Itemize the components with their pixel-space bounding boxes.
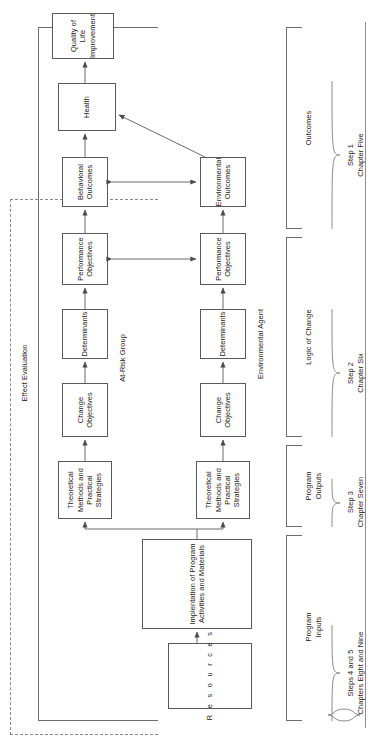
- band-label-program-inputs: Program Inputs: [304, 569, 323, 685]
- figure-page: Effect Evaluation Process Evaluation Res…: [0, 0, 379, 751]
- band-right-tick-logic-of-change: [286, 237, 302, 238]
- step-2-step: Step 2: [346, 362, 355, 384]
- box-methods-bottom-text: Theoretical Methods and Practical Strate…: [204, 463, 242, 517]
- box-quality-of-life: Quality of Life Improvement: [52, 13, 114, 59]
- band-left-tick-logic-of-change: [286, 436, 302, 437]
- step-label-steps-4-5: Steps 4 and 5Chapters Eight and Nine: [346, 613, 365, 733]
- box-health-text: Health: [82, 96, 91, 118]
- row-label-at-risk-group: At-Risk Group: [118, 313, 128, 403]
- step-4-5-step: Steps 4 and 5: [346, 650, 355, 697]
- step-4-5-chapter: Chapters Eight and Nine: [356, 632, 365, 715]
- step-label-step-2: Step 2Chapter Six: [346, 328, 365, 418]
- step-3-step: Step 3: [346, 491, 355, 513]
- box-change-objectives-top: Change Objectives: [62, 383, 108, 437]
- box-performance-objectives-top-text: Performance Objectives: [76, 235, 95, 283]
- step-1-step: Step 1: [346, 144, 355, 166]
- row-label-environmental-agent: Environmental Agent: [256, 289, 266, 399]
- step-label-step-1: Step 1Chapter Five: [346, 110, 365, 200]
- box-performance-objectives-bottom-text: Performance Objectives: [214, 235, 233, 283]
- box-change-objectives-bottom: Change Objectives: [200, 383, 246, 437]
- box-methods-top-text: Theoretical Methods and Practical Strate…: [66, 463, 104, 517]
- band-top-rule-program-inputs: [286, 535, 287, 721]
- box-environmental-outcomes-text: Environmental Outcomes: [214, 158, 233, 207]
- band-left-tick-program-inputs: [286, 720, 302, 721]
- box-resources: Resources: [168, 643, 252, 709]
- box-methods-top: Theoretical Methods and Practical Strate…: [58, 461, 112, 519]
- box-determinants-bottom-text: Determinants: [218, 311, 227, 356]
- band-right-tick-program-inputs: [286, 535, 302, 536]
- box-implementation-text: Implentation of Program Activities and M…: [188, 541, 207, 627]
- band-right-tick-outcomes: [286, 27, 302, 28]
- band-right-tick-program-outputs: [286, 445, 302, 446]
- band-label-outcomes: Outcomes: [304, 78, 314, 178]
- band-label-logic-of-change: Logic of Change: [304, 287, 314, 387]
- step-3-chapter: Chapter Seven: [356, 477, 365, 528]
- box-determinants-bottom: Determinants: [200, 309, 246, 359]
- box-environmental-outcomes: Environmental Outcomes: [200, 157, 246, 207]
- logic-model-diagram: Effect Evaluation Process Evaluation Res…: [0, 0, 379, 751]
- box-methods-bottom: Theoretical Methods and Practical Strate…: [196, 461, 250, 519]
- step-label-step-3: Step 3Chapter Seven: [346, 459, 365, 545]
- box-determinants-top-text: Determinants: [80, 311, 89, 356]
- box-behavioral-outcomes: Behavioral Outcomes: [62, 157, 108, 207]
- box-health: Health: [58, 83, 116, 131]
- band-top-rule-program-outputs: [286, 445, 287, 527]
- band-top-rule-logic-of-change: [286, 237, 287, 437]
- box-behavioral-outcomes-text: Behavioral Outcomes: [76, 159, 95, 205]
- resources-letters: Resources: [205, 645, 214, 707]
- step-2-chapter: Chapter Six: [356, 353, 365, 393]
- process-evaluation-label: Process Evaluation: [0, 617, 2, 737]
- box-change-objectives-bottom-text: Change Objectives: [214, 385, 233, 435]
- band-label-program-outputs: Program Outputs: [304, 443, 323, 529]
- box-performance-objectives-top: Performance Objectives: [62, 233, 108, 285]
- band-top-rule-outcomes: [286, 27, 287, 229]
- band-left-tick-program-outputs: [286, 526, 302, 527]
- box-determinants-top: Determinants: [62, 309, 108, 359]
- box-change-objectives-top-text: Change Objectives: [76, 385, 95, 435]
- box-implementation: Implentation of Program Activities and M…: [142, 539, 252, 629]
- band-left-tick-outcomes: [286, 228, 302, 229]
- step-1-chapter: Chapter Five: [356, 133, 365, 177]
- box-performance-objectives-bottom: Performance Objectives: [200, 233, 246, 285]
- box-quality-of-life-text: Quality of Life Improvement: [69, 14, 97, 58]
